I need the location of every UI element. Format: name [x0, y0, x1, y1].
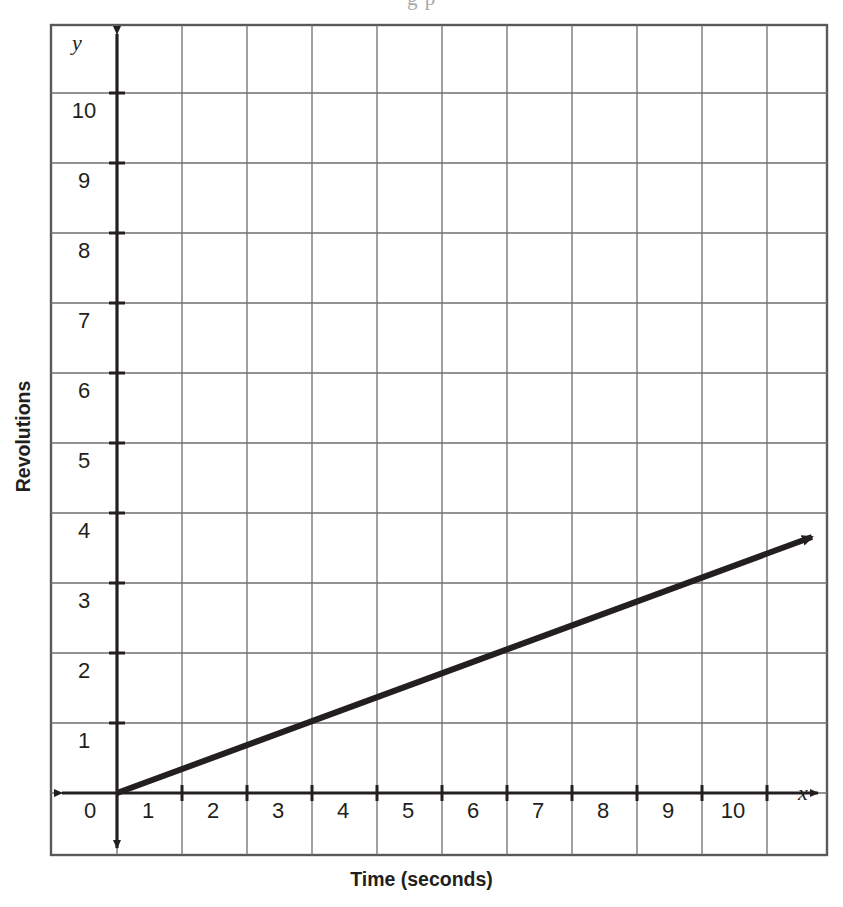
x-tick-label-3: 3 [252, 798, 304, 824]
y-tick-label-3: 3 [58, 588, 110, 614]
x-tick-label-8: 8 [577, 798, 629, 824]
y-tick-label-8: 8 [58, 238, 110, 264]
x-tick-label-5: 5 [382, 798, 434, 824]
y-axis-title: Revolutions [12, 352, 35, 522]
y-tick-label-9: 9 [58, 168, 110, 194]
x-tick-label-6: 6 [447, 798, 499, 824]
x-tick-label-1: 1 [122, 798, 174, 824]
y-tick-label-6: 6 [58, 378, 110, 404]
y-tick-label-1: 1 [58, 728, 110, 754]
x-tick-label-10: 10 [707, 798, 759, 824]
graph-figure: g p [0, 0, 843, 907]
y-variable-symbol: y [72, 30, 82, 56]
x-tick-label-7: 7 [512, 798, 564, 824]
x-tick-label-2: 2 [187, 798, 239, 824]
x-tick-label-0: 0 [64, 798, 116, 824]
x-axis-title: Time (seconds) [0, 868, 843, 891]
y-tick-label-10: 10 [58, 98, 110, 124]
y-tick-label-7: 7 [58, 308, 110, 334]
x-variable-symbol: x [798, 780, 808, 806]
x-tick-label-4: 4 [317, 798, 369, 824]
coordinate-plane-svg [0, 0, 843, 907]
graph-frame [51, 25, 827, 855]
y-tick-label-4: 4 [58, 518, 110, 544]
y-tick-label-5: 5 [58, 448, 110, 474]
y-tick-label-2: 2 [58, 658, 110, 684]
x-tick-label-9: 9 [642, 798, 694, 824]
